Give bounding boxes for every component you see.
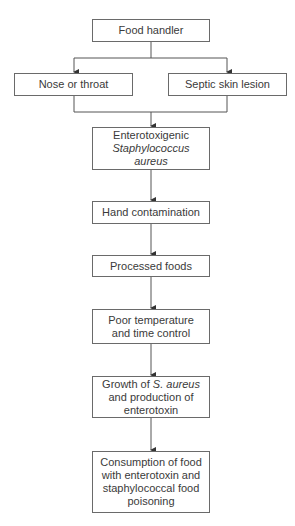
node-label: Septic skin lesion: [185, 78, 270, 91]
node-enterotoxigenic-s-aureus: Enterotoxigenic Staphylococcus aureus: [92, 127, 210, 170]
node-label-line: enterotoxin: [124, 404, 178, 417]
node-label-line: and production of: [108, 391, 193, 404]
node-label-line: aureus: [134, 155, 168, 168]
node-label-line: Poor temperature: [108, 314, 194, 327]
node-nose-or-throat: Nose or throat: [14, 73, 133, 96]
node-label-line: staphylococcal food: [103, 482, 200, 495]
node-label-line: Staphylococcus: [112, 142, 189, 155]
node-label: Processed foods: [110, 260, 192, 273]
node-hand-contamination: Hand contamination: [92, 201, 210, 224]
node-label: Hand contamination: [102, 206, 200, 219]
node-label-line: Growth of S. aureus: [102, 378, 200, 391]
node-label-line: and time control: [112, 327, 190, 340]
node-label-line: with enterotoxin and: [102, 469, 200, 482]
node-label: Food handler: [119, 24, 184, 37]
label-italic: S. aureus: [153, 378, 200, 390]
node-processed-foods: Processed foods: [92, 255, 210, 277]
node-consumption: Consumption of food with enterotoxin and…: [92, 451, 210, 513]
node-label-line: Enterotoxigenic: [113, 129, 189, 142]
node-food-handler: Food handler: [92, 19, 210, 42]
node-septic-skin-lesion: Septic skin lesion: [168, 73, 287, 96]
node-growth-s-aureus: Growth of S. aureus and production of en…: [92, 376, 210, 418]
label-text: Growth of: [102, 378, 153, 390]
node-label-line: poisoning: [127, 495, 174, 508]
node-label: Nose or throat: [39, 78, 109, 91]
node-label-line: Consumption of food: [100, 456, 202, 469]
node-poor-temperature: Poor temperature and time control: [92, 309, 210, 344]
